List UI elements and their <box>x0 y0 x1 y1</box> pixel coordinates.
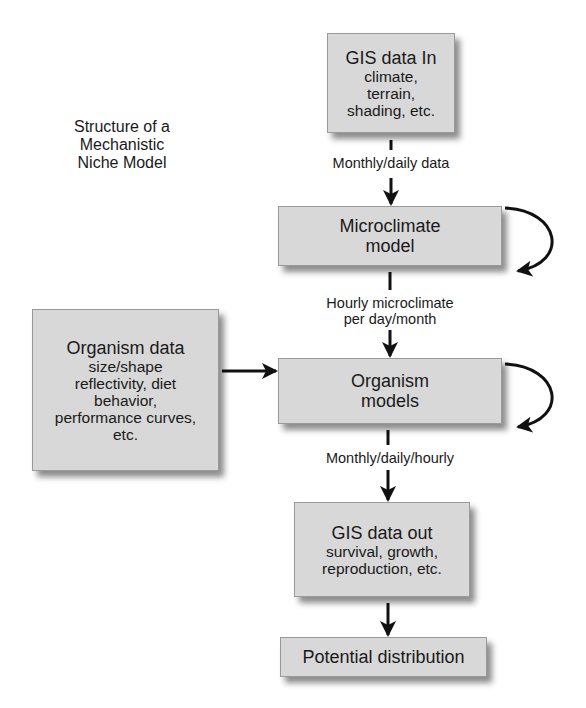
edge-label-monthly-daily: Monthly/daily data <box>311 155 471 171</box>
organism-models-node: Organism models <box>278 358 502 424</box>
potential-distribution-node: Potential distribution <box>280 637 487 677</box>
edge-label-hourly-microclimate: Hourly microclimate per day/month <box>300 295 480 327</box>
organism-data-node: Organism data size/shape reflectivity, d… <box>32 309 219 471</box>
edge-label-monthly-daily-hourly: Monthly/daily/hourly <box>300 450 480 466</box>
gis-data-in-node: GIS data In climate, terrain, shading, e… <box>327 33 455 133</box>
microclimate-model-node: Microclimate model <box>278 206 502 266</box>
gis-data-out-node: GIS data out survival, growth, reproduct… <box>294 502 470 597</box>
